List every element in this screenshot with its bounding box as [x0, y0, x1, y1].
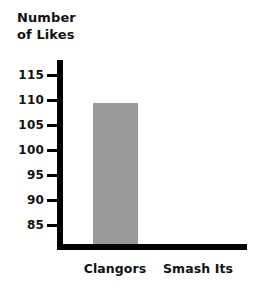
category-label-smash-its: Smash Its — [138, 261, 256, 276]
bar-chart: Number of Likes 115110105100959085 Clang… — [0, 0, 256, 292]
y-axis-tick-label: 115 — [0, 69, 44, 81]
y-axis-tick — [47, 124, 58, 127]
y-axis-tick — [47, 224, 58, 227]
y-axis-tick-label: 85 — [0, 219, 44, 231]
bar-clangors — [93, 103, 138, 245]
y-axis-tick — [47, 149, 58, 152]
y-axis-tick-label: 105 — [0, 119, 44, 131]
chart-axis-title: Number of Likes — [17, 9, 127, 43]
bar-smash-its — [176, 225, 221, 244]
y-axis-tick — [47, 99, 58, 102]
y-axis-tick-label: 90 — [0, 194, 44, 206]
y-axis-tick — [47, 74, 58, 77]
y-axis-tick — [47, 199, 58, 202]
y-axis-tick-label: 110 — [0, 94, 44, 106]
y-axis-tick — [47, 174, 58, 177]
y-axis-tick-label: 100 — [0, 144, 44, 156]
x-axis-line — [57, 244, 247, 250]
y-axis-line — [57, 60, 63, 250]
y-axis-tick-label: 95 — [0, 169, 44, 181]
